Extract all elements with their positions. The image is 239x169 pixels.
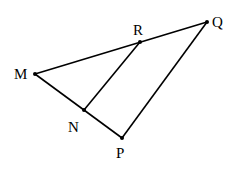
point-P [120, 136, 124, 140]
triangle-diagram: M R Q N P [0, 0, 239, 169]
label-R: R [133, 22, 143, 38]
label-P: P [116, 145, 124, 161]
segment-NR [84, 42, 140, 110]
point-Q [205, 20, 209, 24]
segment-PQ [122, 22, 207, 138]
label-N: N [68, 119, 79, 135]
label-M: M [14, 66, 27, 82]
point-N [82, 108, 86, 112]
point-R [138, 40, 142, 44]
label-Q: Q [212, 14, 223, 30]
point-M [33, 72, 37, 76]
